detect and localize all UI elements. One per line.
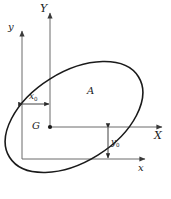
dimension-y0-label-sub: 0 <box>116 142 120 148</box>
centroid-label: G <box>32 121 40 131</box>
cross-section-diagram: Y y X x G A x0 y0 <box>0 0 171 199</box>
dimension-y0-label: y0 <box>111 138 120 148</box>
area-label: A <box>87 86 94 96</box>
dimension-x0-label-sub: 0 <box>34 96 38 102</box>
axis-label-y: y <box>8 22 14 32</box>
reference-axes <box>22 31 145 159</box>
axis-label-Y: Y <box>40 3 47 14</box>
axis-label-X: X <box>154 130 162 141</box>
axis-label-x: x <box>138 163 144 173</box>
dimension-x0-label: x0 <box>29 92 38 102</box>
centroid-point <box>48 125 52 129</box>
diagram-canvas <box>0 0 171 199</box>
